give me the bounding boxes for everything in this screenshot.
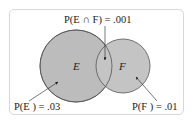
set-f-probability-label: P(F ) = .01 (132, 101, 178, 113)
intersection-probability-label: P(E ∩ F) = .001 (64, 14, 131, 26)
set-f-arrow-icon (136, 77, 157, 101)
venn-diagram: E F P(E ∩ F) = .001 P(E ) = .03 P(F ) = … (0, 0, 194, 123)
set-f-label: F (118, 60, 126, 72)
set-e-probability-label: P(E ) = .03 (14, 101, 60, 113)
set-e-label: E (72, 60, 80, 72)
